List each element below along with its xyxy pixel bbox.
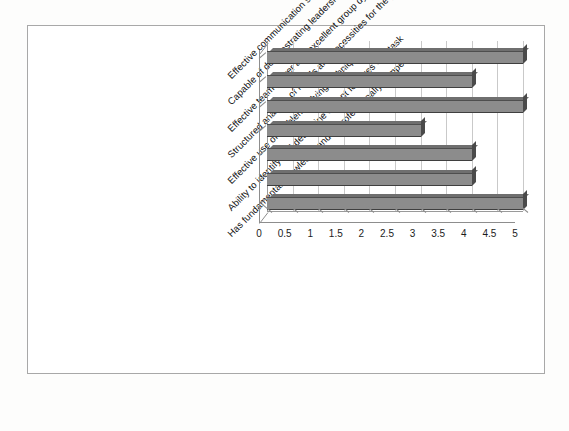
bar-front-face [267,100,523,113]
value-axis-tick-label: 4 [452,228,476,239]
value-axis-tick-label: 3 [401,228,425,239]
bar-front-face [267,173,472,186]
value-axis-tick-label: 0.5 [273,228,297,239]
category-label: Effective communication skills: Visual, … [225,73,233,81]
bar [267,121,421,137]
bar [267,72,472,88]
plot-area: 00.511.522.533.544.55 [259,41,523,226]
bar-top-face [270,48,529,51]
value-axis-tick-label: 1.5 [324,228,348,239]
value-axis-tick-label: 3.5 [426,228,450,239]
bar-end-cap [523,93,527,113]
category-axis-labels: Effective communication skills: Visual, … [28,26,259,375]
bar-front-face [267,75,472,88]
bar-top-face [270,72,478,75]
value-axis-tick-label: 2 [349,228,373,239]
bar [267,97,523,113]
category-label: Ability to identify and determine salien… [225,205,233,213]
bar-end-cap [472,166,476,186]
category-label: Effective team player and excellent grou… [225,126,233,134]
value-axis-front [259,222,515,223]
category-label: Has fundamental knowledge and is profess… [225,231,233,239]
bar-front-face [267,124,421,137]
bar-top-face [270,170,478,173]
bar [267,48,523,64]
bar [267,145,472,161]
value-axis-tick-label: 2.5 [375,228,399,239]
category-label: Structured analysis of needs and necessi… [225,152,233,160]
value-axis-tick-label: 4.5 [477,228,501,239]
bar-end-cap [421,117,425,137]
bar-front-face [267,51,523,64]
chart-frame: Effective communication skills: Visual, … [27,25,545,374]
bar-top-face [270,145,478,148]
category-label: Capable of demonstrating leadership qual… [225,100,233,108]
bar [267,170,472,186]
bar-top-face [270,97,529,100]
value-axis-back [267,211,523,212]
category-label: Effective use of problem solving techniq… [225,179,233,187]
category-axis-front [259,50,260,222]
gridline [523,41,524,211]
bar-end-cap [523,190,527,210]
bar-end-cap [523,44,527,64]
bar-top-face [270,121,427,124]
value-axis-tick-label: 1 [298,228,322,239]
bar-front-face [267,148,472,161]
gridline [497,41,498,211]
value-axis-tick-label: 5 [503,228,527,239]
value-axis-tick-label: 0 [247,228,271,239]
bar-top-face [270,194,529,197]
